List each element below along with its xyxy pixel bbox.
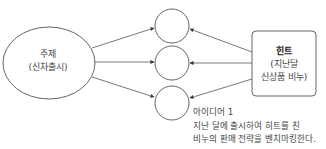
topic-title: 주제 [40,48,56,60]
idea-note: 아이디어 1 지난 달에 출시하여 히트를 친 비누의 판매 전략을 벤치마킹한… [193,106,316,147]
idea-circle-1 [155,9,189,43]
hint-title: 힌트 [276,45,292,57]
hint-line-2: 신상품 비누) [261,71,307,83]
arrow-hint-to-idea-1 [190,29,252,52]
idea-note-title: 아이디어 1 [193,106,316,120]
hint-line-1: (지난달 [270,58,298,70]
arrow-hint-to-idea-3 [190,79,252,98]
idea-circle-2 [155,46,189,80]
arrow-topic-to-idea-1 [92,28,154,48]
topic-subtitle: (신차출시) [28,61,67,73]
idea-circle-3 [155,86,189,120]
arrow-topic-to-idea-3 [92,77,154,97]
idea-note-line-2: 비누의 판매 전략을 벤치마킹한다. [193,133,316,147]
idea-note-line-1: 지난 달에 출시하여 히트를 친 [193,120,316,134]
